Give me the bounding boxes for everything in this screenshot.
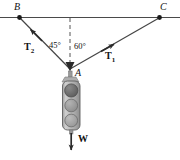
angle-label-45: 45° (49, 41, 61, 50)
vector-label-t1: T1 (105, 51, 115, 64)
point-label-a: A (75, 68, 81, 78)
node-dot-c (157, 15, 162, 20)
diagram-canvas (0, 0, 180, 160)
vector-label-t2-subscript: 2 (31, 47, 35, 55)
physics-diagram: B C A 45° 60° T2 T1 W (0, 0, 180, 160)
vector-label-t2-text: T (24, 41, 31, 52)
point-label-c: C (160, 2, 167, 12)
vector-label-w: W (78, 134, 88, 144)
vector-label-t1-text: T (105, 50, 112, 61)
vector-label-t2: T2 (24, 42, 34, 55)
mount-stem (69, 71, 73, 77)
middle-light (65, 99, 78, 112)
bottom-light (65, 114, 78, 127)
top-light (65, 84, 78, 97)
vector-label-t1-subscript: 1 (112, 56, 116, 64)
node-dot-b (17, 15, 22, 20)
point-label-b: B (14, 2, 20, 12)
angle-label-60: 60° (74, 42, 86, 51)
tension-vector-t2-arrow (31, 30, 43, 42)
